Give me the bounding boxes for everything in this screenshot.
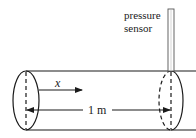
right-ellipse-back-dashed xyxy=(159,71,171,130)
sensor-label-line1: pressure xyxy=(124,9,161,21)
sensor-label-line2: sensor xyxy=(124,22,152,34)
right-ellipse-front-solid xyxy=(171,71,183,130)
right-cross-section xyxy=(159,71,183,130)
x-label: x xyxy=(54,76,61,90)
x-direction-arrow: x xyxy=(39,76,82,90)
pipe-diagram: pressure sensor x 1 m xyxy=(0,0,196,138)
length-label: 1 m xyxy=(88,103,107,117)
length-dimension: 1 m xyxy=(27,103,170,117)
left-cross-section xyxy=(13,71,39,130)
pressure-sensor: pressure sensor xyxy=(124,9,174,71)
